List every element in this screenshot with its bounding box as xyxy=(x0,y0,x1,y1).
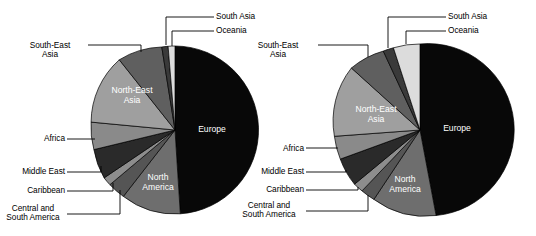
leader-middle-east xyxy=(67,166,101,172)
callout-label-central-south-america: Central and South America xyxy=(234,201,304,220)
callout-label-south-east-asia: South-East Asia xyxy=(240,41,316,60)
callout-label-south-east-asia: South-East Asia xyxy=(12,41,88,60)
inner-label-north-east-asia: North-East Asia xyxy=(344,105,408,125)
inner-label-north-east-asia: North-East Asia xyxy=(100,86,164,106)
leader-middle-east xyxy=(306,170,346,172)
callout-label-caribbean: Caribbean xyxy=(238,185,304,194)
leader-central-south-america xyxy=(306,195,368,211)
leader-south-east-asia xyxy=(88,45,141,52)
figure-canvas: South-East Asia Africa Middle East Carib… xyxy=(0,0,536,236)
callout-label-oceania-left: Oceania xyxy=(216,26,278,35)
leader-caribbean xyxy=(67,183,113,191)
leader-oceania xyxy=(172,31,214,46)
inner-label-europe: Europe xyxy=(185,125,239,135)
callout-label-middle-east: Middle East xyxy=(238,167,304,176)
callout-label-africa: Africa xyxy=(238,144,304,153)
inner-label-north-america: North America xyxy=(378,175,432,195)
callout-label-south-asia-left: South Asia xyxy=(216,12,278,21)
callout-label-caribbean: Caribbean xyxy=(0,186,65,195)
callout-label-africa: Africa xyxy=(0,134,65,143)
callout-label-south-asia-right: South Asia xyxy=(448,12,510,21)
callout-label-central-south-america: Central and South America xyxy=(0,204,66,223)
inner-label-europe: Europe xyxy=(430,124,484,134)
callout-label-middle-east: Middle East xyxy=(0,167,65,176)
leader-south-east-asia xyxy=(318,45,368,57)
callout-label-oceania-right: Oceania xyxy=(448,26,510,35)
leader-south-asia xyxy=(388,17,446,48)
leader-oceania xyxy=(406,31,446,44)
leader-central-south-america xyxy=(67,190,120,214)
inner-label-north-america: North America xyxy=(132,173,184,193)
leader-caribbean xyxy=(306,187,358,190)
